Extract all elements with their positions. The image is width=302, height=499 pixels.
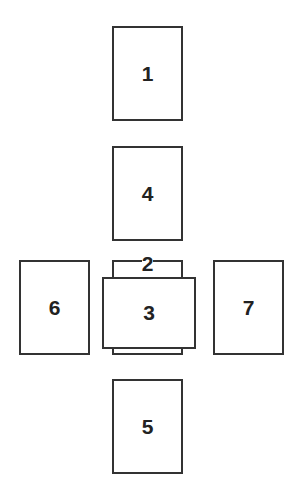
card-5: 5 [112, 379, 183, 474]
card-3-label: 3 [143, 301, 155, 325]
card-2-label: 2 [142, 253, 154, 274]
card-6: 6 [19, 260, 90, 355]
card-1: 1 [112, 26, 183, 121]
card-1-label: 1 [142, 62, 154, 86]
card-3: 3 [102, 277, 196, 349]
card-7: 7 [213, 260, 284, 355]
card-4: 4 [112, 146, 183, 241]
card-7-label: 7 [243, 296, 255, 320]
card-4-label: 4 [142, 182, 154, 206]
card-6-label: 6 [49, 296, 61, 320]
card-5-label: 5 [142, 415, 154, 439]
